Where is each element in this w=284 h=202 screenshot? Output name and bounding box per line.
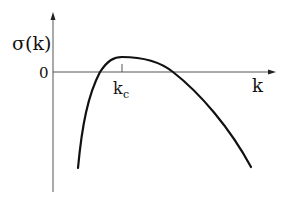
y-axis-arrow-icon — [51, 12, 56, 20]
critical-k-label: k — [113, 79, 123, 98]
x-axis-label: k — [252, 75, 264, 96]
y-axis-label: σ(k) — [12, 32, 51, 54]
zero-label: 0 — [39, 64, 49, 82]
dispersion-diagram: σ(k) 0 k k c — [0, 0, 284, 202]
x-axis-arrow-icon — [268, 70, 276, 75]
growth-rate-curve — [78, 57, 251, 168]
critical-k-subscript: c — [123, 88, 129, 101]
